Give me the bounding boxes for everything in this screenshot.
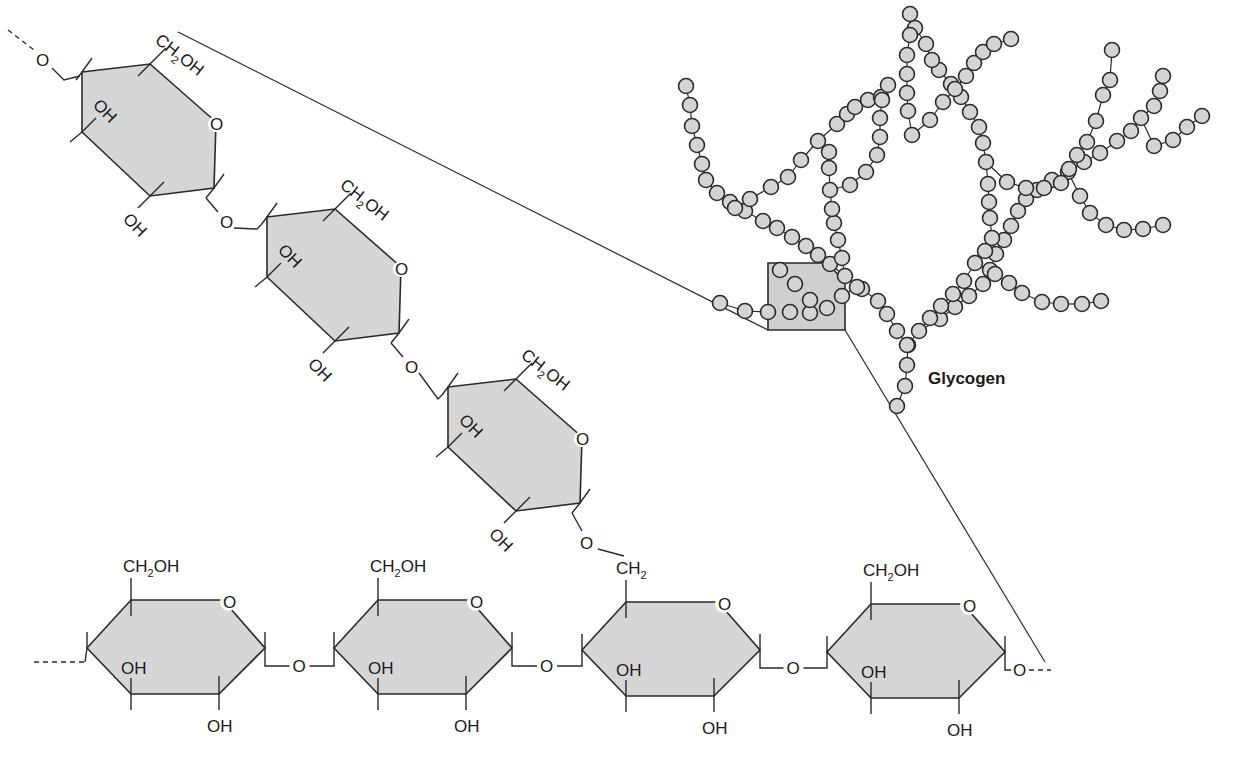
glycosidic-bond bbox=[572, 513, 582, 531]
glucose-unit-icon bbox=[685, 119, 700, 134]
glucose-unit-icon bbox=[1136, 222, 1151, 237]
glucose-unit-icon bbox=[925, 53, 940, 68]
glucose-unit-icon bbox=[875, 93, 890, 108]
guide-line bbox=[178, 32, 768, 330]
ch2oh-label: CH2OH bbox=[370, 557, 426, 579]
glycosidic-bond bbox=[391, 343, 403, 357]
ring-shape bbox=[82, 64, 216, 196]
glucose-ring-bottom-1: OCH2OHOHOH bbox=[87, 557, 265, 736]
glucose-unit-icon bbox=[799, 239, 814, 254]
glucose-unit-icon bbox=[1004, 32, 1019, 47]
glucose-unit-icon bbox=[890, 399, 905, 414]
glucose-unit-icon bbox=[962, 289, 977, 304]
glycosidic-oxygen-label: O bbox=[787, 659, 800, 678]
glucose-unit-icon bbox=[976, 136, 991, 151]
hydroxyl-label: OH bbox=[304, 354, 335, 385]
glucose-unit-icon bbox=[871, 294, 886, 309]
glucose-unit-icon bbox=[963, 105, 978, 120]
ring-oxygen-label: O bbox=[210, 115, 223, 134]
glycosidic-oxygen-label: O bbox=[220, 213, 233, 232]
glucose-unit-icon bbox=[1195, 109, 1210, 124]
glucose-unit-icon bbox=[822, 145, 837, 160]
glucose-unit-icon bbox=[1124, 124, 1139, 139]
glucose-unit-icon bbox=[781, 170, 796, 185]
glycosidic-bond bbox=[206, 198, 218, 212]
hydroxyl-label: OH bbox=[947, 721, 973, 740]
glucose-ring-bottom-3: OCH2OHOH bbox=[582, 559, 760, 738]
glucose-unit-icon bbox=[1054, 297, 1069, 312]
glucose-unit-icon bbox=[934, 299, 949, 314]
glucose-unit-icon bbox=[983, 211, 998, 226]
glucose-unit-icon bbox=[903, 28, 918, 43]
glucose-unit-icon bbox=[679, 79, 694, 94]
glycogen-diagram: OCH2OHOHOHOCH2OHOHOHOCH2OHOHOHOOOOCH2OHO… bbox=[0, 0, 1233, 760]
glucose-unit-icon bbox=[1134, 111, 1149, 126]
ring-oxygen-label: O bbox=[718, 595, 731, 614]
substituent-bond bbox=[70, 132, 82, 142]
glycosidic-bond bbox=[310, 648, 335, 666]
glucose-unit-icon bbox=[948, 82, 963, 97]
ring-oxygen-label: O bbox=[963, 597, 976, 616]
glucose-unit-icon bbox=[1002, 276, 1017, 291]
glycosidic-oxygen-label: O bbox=[1013, 661, 1026, 680]
glycosidic-bond bbox=[760, 650, 784, 668]
substituent-bond bbox=[214, 174, 224, 188]
glucose-unit-icon bbox=[881, 78, 896, 93]
glucose-unit-icon bbox=[728, 201, 743, 216]
glucose-unit-icon bbox=[898, 379, 913, 394]
glucose-unit-icon bbox=[710, 186, 725, 201]
hydroxyl-label: OH bbox=[616, 661, 642, 680]
glucose-unit-icon bbox=[900, 358, 915, 373]
glucose-unit-icon bbox=[859, 165, 874, 180]
glucose-unit-icon bbox=[901, 104, 916, 119]
glucose-unit-icon bbox=[919, 37, 934, 52]
glucose-unit-icon bbox=[873, 111, 888, 126]
glucose-unit-icon bbox=[835, 251, 850, 266]
glucose-unit-icon bbox=[788, 277, 803, 292]
glucose-unit-icon bbox=[1166, 133, 1181, 148]
glycosidic-bond bbox=[85, 648, 87, 662]
diagram-canvas: OCH2OHOHOHOCH2OHOHOHOCH2OHOHOHOOOOCH2OHO… bbox=[0, 0, 1233, 760]
substituent-bond bbox=[255, 277, 267, 287]
glycosidic-bond bbox=[234, 225, 261, 229]
hydroxyl-label: OH bbox=[702, 719, 728, 738]
glucose-unit-icon bbox=[761, 305, 776, 320]
glucose-unit-icon bbox=[900, 48, 915, 63]
glucose-unit-icon bbox=[1103, 73, 1118, 88]
glycosidic-oxygen-label: O bbox=[293, 657, 306, 676]
ring-oxygen-label: O bbox=[576, 430, 589, 449]
glucose-unit-icon bbox=[1054, 176, 1069, 191]
ring-shape bbox=[582, 602, 760, 696]
glucose-unit-icon bbox=[988, 267, 1003, 282]
glucose-unit-icon bbox=[880, 307, 895, 322]
glucose-unit-icon bbox=[1019, 181, 1034, 196]
glucose-unit-icon bbox=[843, 178, 858, 193]
glycosidic-bond bbox=[512, 648, 537, 666]
chain-continuation bbox=[8, 30, 34, 50]
glucose-unit-icon bbox=[957, 274, 972, 289]
ring-oxygen-label: O bbox=[395, 260, 408, 279]
glucose-unit-icon bbox=[923, 311, 938, 326]
hydroxyl-label: OH bbox=[861, 663, 887, 682]
glucose-unit-icon bbox=[1004, 219, 1019, 234]
glucose-unit-icon bbox=[683, 98, 698, 113]
ring-shape bbox=[87, 600, 265, 694]
ch2oh-label: CH2OH bbox=[123, 557, 179, 579]
branch-oxygen-label: O bbox=[580, 534, 593, 553]
glucose-unit-icon bbox=[981, 177, 996, 192]
glucose-unit-icon bbox=[831, 233, 846, 248]
glucose-unit-icon bbox=[873, 130, 888, 145]
glucose-unit-icon bbox=[1105, 43, 1120, 58]
alpha-1-6-bond bbox=[598, 549, 624, 556]
substituent-bond bbox=[323, 341, 335, 353]
glucose-unit-icon bbox=[987, 37, 1002, 52]
substituent-bond bbox=[267, 203, 277, 217]
glucose-units bbox=[679, 7, 1210, 414]
glucose-unit-icon bbox=[1180, 120, 1195, 135]
ch2-label: CH2 bbox=[616, 559, 647, 581]
glucose-unit-icon bbox=[900, 338, 915, 353]
glucose-unit-icon bbox=[905, 128, 920, 143]
glucose-unit-icon bbox=[985, 231, 1000, 246]
glucose-unit-icon bbox=[1110, 134, 1125, 149]
glucose-unit-icon bbox=[770, 221, 785, 236]
